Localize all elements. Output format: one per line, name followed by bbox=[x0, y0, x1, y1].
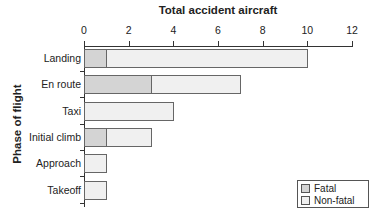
fatal-bar bbox=[84, 75, 152, 94]
x-tick bbox=[129, 41, 130, 47]
x-tick-label: 2 bbox=[119, 24, 139, 36]
x-tick-label: 8 bbox=[253, 24, 273, 36]
category-label: Initial climb bbox=[29, 131, 81, 143]
nonfatal-bar bbox=[84, 154, 107, 173]
x-tick-label: 0 bbox=[74, 24, 94, 36]
y-tick bbox=[80, 124, 85, 125]
x-tick-label: 12 bbox=[342, 24, 362, 36]
legend-item-fatal: Fatal bbox=[301, 182, 368, 194]
x-tick bbox=[173, 41, 174, 47]
fatal-bar bbox=[84, 128, 107, 147]
x-axis-title: Total accident aircraft bbox=[84, 4, 352, 16]
legend: Fatal Non-fatal bbox=[297, 180, 369, 208]
y-tick bbox=[80, 203, 85, 204]
x-tick bbox=[263, 41, 264, 47]
x-tick-label: 10 bbox=[297, 24, 317, 36]
bar-chart: Total accident aircraft Phase of flight … bbox=[0, 0, 371, 212]
x-tick bbox=[352, 41, 353, 47]
category-label: Approach bbox=[36, 157, 81, 169]
nonfatal-bar bbox=[84, 102, 174, 121]
nonfatal-swatch-icon bbox=[301, 196, 310, 205]
nonfatal-bar bbox=[151, 75, 241, 94]
y-tick bbox=[80, 97, 85, 98]
nonfatal-bar bbox=[84, 181, 107, 200]
nonfatal-bar bbox=[106, 128, 152, 147]
category-label: Taxi bbox=[62, 105, 81, 117]
x-tick bbox=[307, 41, 308, 47]
fatal-swatch-icon bbox=[301, 184, 310, 193]
category-label: En route bbox=[41, 78, 81, 90]
category-label: Takeoff bbox=[47, 184, 81, 196]
y-tick bbox=[80, 176, 85, 177]
nonfatal-bar bbox=[106, 49, 308, 68]
legend-label-fatal: Fatal bbox=[314, 183, 336, 194]
legend-label-nonfatal: Non-fatal bbox=[314, 195, 355, 206]
x-tick bbox=[84, 41, 85, 47]
legend-item-nonfatal: Non-fatal bbox=[301, 194, 368, 206]
y-axis-title: Phase of flight bbox=[11, 79, 23, 169]
fatal-bar bbox=[84, 49, 107, 68]
x-tick-label: 6 bbox=[208, 24, 228, 36]
x-tick-label: 4 bbox=[163, 24, 183, 36]
y-tick bbox=[80, 150, 85, 151]
y-tick bbox=[80, 71, 85, 72]
x-tick bbox=[218, 41, 219, 47]
category-label: Landing bbox=[44, 52, 81, 64]
